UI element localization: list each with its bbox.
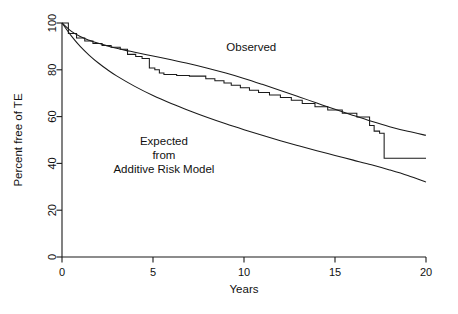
y-tick-label-100: 100: [46, 14, 58, 32]
annotation-observed: Observed: [226, 41, 276, 53]
x-tick-label-15: 15: [329, 266, 341, 278]
x-tick-label-10: 10: [238, 266, 250, 278]
annotation-expected-line1: Expected: [140, 135, 188, 147]
chart-figure: 05101520 020406080100 ObservedExpectedfr…: [0, 0, 458, 314]
x-tick-label-20: 20: [420, 266, 432, 278]
survival-curve-chart: 05101520 020406080100 ObservedExpectedfr…: [0, 0, 458, 314]
x-tick-label-5: 5: [150, 266, 156, 278]
annotation-expected-line3: Additive Risk Model: [113, 163, 214, 175]
y-tick-label-0: 0: [46, 254, 58, 260]
y-tick-label-20: 20: [46, 204, 58, 216]
annotation-expected-line2: from: [152, 149, 175, 161]
y-tick-label-40: 40: [46, 157, 58, 169]
y-tick-label-60: 60: [46, 110, 58, 122]
x-tick-label-0: 0: [59, 266, 65, 278]
y-tick-label-80: 80: [46, 64, 58, 76]
y-axis-title: Percent free of TE: [12, 93, 24, 186]
x-axis-title: Years: [230, 283, 259, 295]
